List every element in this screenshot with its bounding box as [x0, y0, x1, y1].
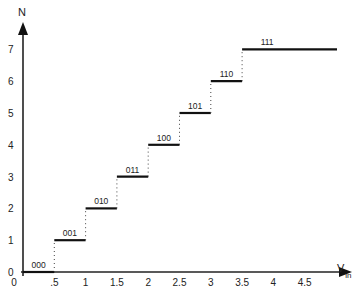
x-tick-label: 4.5	[298, 277, 312, 288]
x-axis-label-subscript: in	[345, 271, 351, 280]
y-tick-label: 5	[8, 108, 14, 119]
y-tick-label: 6	[8, 76, 14, 87]
x-axis-label: Vin	[337, 262, 352, 280]
x-tick-label: 1.5	[110, 277, 124, 288]
step-code-label: 110	[220, 69, 234, 79]
quantization-steps: 000001010011100101110111	[23, 37, 337, 272]
step-code-label: 100	[157, 133, 171, 143]
y-axis-arrow-icon	[18, 22, 28, 35]
step-code-label: 010	[94, 196, 108, 206]
x-tick-label: 4	[271, 277, 277, 288]
x-tick-label: .5	[50, 277, 59, 288]
x-tick-label: 1	[83, 277, 89, 288]
adc-transfer-chart: N Vin 01234567 0.511.522.533.544.5 00000…	[0, 0, 359, 297]
x-tick-label: 3.5	[235, 277, 249, 288]
step-code-label: 011	[126, 165, 140, 175]
x-tick-label: 3	[208, 277, 214, 288]
x-tick-label: 2	[145, 277, 151, 288]
step-code-label: 000	[32, 260, 46, 270]
step-code-label: 101	[188, 101, 202, 111]
x-tick-label: 2.5	[173, 277, 187, 288]
step-code-label: 111	[261, 37, 274, 47]
y-tick-label: 7	[8, 44, 14, 55]
y-tick-label: 1	[8, 235, 14, 246]
y-tick-labels: 01234567	[8, 44, 14, 278]
y-axis-label: N	[18, 6, 26, 18]
axes: N Vin	[18, 6, 352, 280]
x-tick-labels: 0.511.522.533.544.5	[11, 277, 312, 288]
step-code-label: 001	[63, 228, 77, 238]
x-tick-label: 0	[11, 277, 17, 288]
y-tick-label: 3	[8, 172, 14, 183]
y-tick-label: 2	[8, 203, 14, 214]
y-tick-label: 4	[8, 140, 14, 151]
